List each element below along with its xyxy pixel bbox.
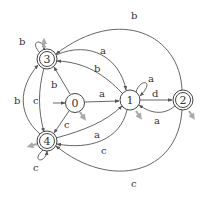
edge-label: b (19, 36, 25, 47)
state-0[interactable]: 0 (66, 94, 85, 113)
edge-label: a (94, 129, 100, 140)
state-2[interactable]: 2 (173, 90, 193, 110)
edge-label: a (148, 73, 154, 84)
edge-label: a (154, 115, 160, 126)
edge-label: d (152, 88, 159, 99)
state-3[interactable]: 3 (37, 49, 57, 69)
edge-0-4: c (54, 111, 70, 133)
state-label: 0 (72, 97, 79, 110)
marker-arrow-icon (136, 111, 140, 117)
state-1[interactable]: 1 (120, 90, 140, 110)
edge-label: a (99, 88, 105, 99)
edge-2-1: a (139, 105, 175, 126)
state-4[interactable]: 4 (37, 131, 57, 151)
state-label: 3 (44, 53, 51, 66)
edge-3-1: a (56, 45, 126, 90)
state-label: 1 (127, 94, 134, 107)
edge-0-1: a (85, 88, 119, 102)
edge-label: c (64, 119, 70, 130)
edge-label: a (100, 45, 106, 56)
marker-arrow-icon (30, 144, 37, 146)
edge-label: c (33, 95, 39, 106)
edge-label: c (131, 178, 137, 189)
marker-arrow-icon (189, 111, 193, 117)
automaton-diagram: a b c b a b c b a d a b (0, 0, 207, 197)
edge-0-3: b (51, 67, 70, 94)
edge-4-4: c (33, 150, 47, 173)
state-label: 2 (180, 94, 187, 107)
marker-arrow-icon (80, 112, 84, 118)
edge-label: c (33, 162, 39, 173)
edge-label: b (131, 10, 137, 21)
edge-3-4: c (33, 68, 44, 132)
state-label: 4 (44, 135, 51, 148)
edge-label: b (14, 95, 20, 106)
edge-2-4: c (56, 110, 182, 189)
edge-label: b (94, 63, 100, 74)
edge-1-4: c (57, 110, 127, 156)
edge-label: b (51, 79, 57, 90)
edge-3-3: b (19, 36, 44, 53)
edge-label: c (101, 145, 107, 156)
